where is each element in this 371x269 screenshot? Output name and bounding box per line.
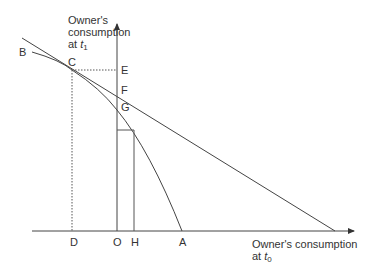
x-axis-label-line1: Owner's consumption (252, 238, 357, 250)
x-axis-label: Owner's consumption at t0 (252, 238, 357, 266)
y-label-prefix: at (68, 38, 80, 50)
y-axis-label-line2: consumption (68, 26, 130, 38)
investment-curve (32, 52, 182, 231)
diagram-graphic (0, 0, 371, 269)
label-f: F (121, 84, 128, 96)
x-label-sub: 0 (267, 255, 271, 264)
y-axis-label-line3: at t1 (68, 38, 130, 54)
y-axis-label: Owner's consumption at t1 (68, 14, 130, 54)
label-a: A (179, 236, 186, 248)
label-d: D (70, 236, 78, 248)
label-o: O (113, 236, 122, 248)
label-g: G (121, 101, 130, 113)
label-h: H (131, 236, 139, 248)
x-axis-label-line2: at t0 (252, 250, 357, 266)
label-c: C (68, 56, 76, 68)
x-label-prefix: at (252, 250, 264, 262)
diagram: Owner's consumption at t1 Owner's consum… (0, 0, 371, 269)
y-label-sub: 1 (83, 43, 87, 52)
label-b: B (19, 46, 26, 58)
label-e: E (121, 64, 128, 76)
y-axis-label-line1: Owner's (68, 14, 130, 26)
